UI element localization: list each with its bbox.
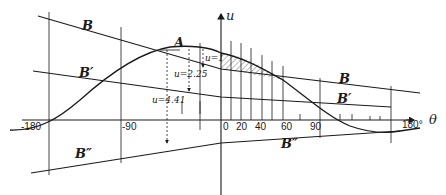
hatched-region bbox=[221, 53, 283, 80]
label-B-right: B bbox=[338, 71, 350, 86]
label-A: A bbox=[172, 35, 184, 50]
diagram-canvas: u θ B A B′ B B′ B″ B″ u=1 u=2.25 u=4.41 … bbox=[0, 0, 446, 195]
tick-40: 40 bbox=[255, 121, 267, 132]
label-B-prime-right: B′ bbox=[336, 91, 352, 106]
tick-neg90: -90 bbox=[122, 121, 137, 132]
tick-180: 180° bbox=[402, 119, 423, 130]
label-B-double-prime-left: B″ bbox=[74, 146, 92, 161]
tick-0: 0 bbox=[223, 121, 229, 132]
tick-90: 90 bbox=[310, 121, 322, 132]
label-u-2-25: u=2.25 bbox=[174, 69, 208, 79]
label-u-4-41: u=4.41 bbox=[152, 95, 185, 105]
u-axis-label: u bbox=[226, 8, 234, 23]
tick-60: 60 bbox=[281, 121, 293, 132]
tick-neg180: -180 bbox=[21, 121, 41, 132]
theta-axis-label: θ bbox=[429, 112, 437, 127]
label-B-double-prime-right: B″ bbox=[280, 136, 298, 151]
tick-20: 20 bbox=[236, 121, 248, 132]
label-B-prime-left: B′ bbox=[78, 65, 94, 80]
diagram: u θ B A B′ B B′ B″ B″ u=1 u=2.25 u=4.41 … bbox=[0, 0, 446, 195]
label-u-1: u=1 bbox=[205, 53, 224, 63]
label-B-top: B bbox=[81, 18, 93, 33]
